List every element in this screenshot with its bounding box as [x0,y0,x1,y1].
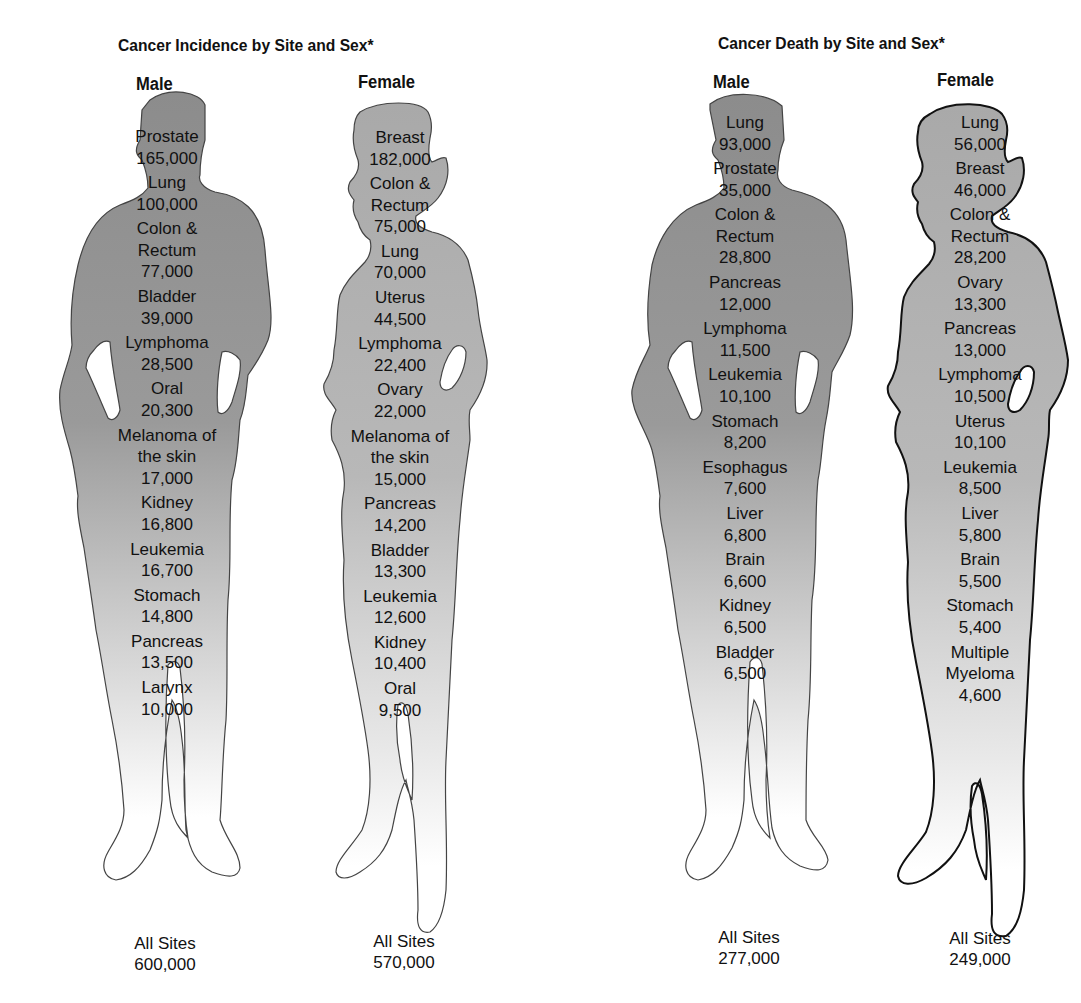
site-entry: Bladder39,000 [82,286,252,329]
site-entry: Colon & Rectum28,800 [700,204,790,269]
incidence-female-sites: Breast182,000 Colon & Rectum75,000 Lung7… [320,127,480,724]
site-entry: Leukemia12,600 [320,586,480,629]
site-entry: Esophagus7,600 [665,457,825,500]
site-entry: Prostate165,000 [82,126,252,169]
site-entry: Pancreas14,200 [320,493,480,536]
site-entry: Colon & Rectum75,000 [355,173,445,238]
site-entry: Leukemia10,100 [665,364,825,407]
site-entry: Uterus10,100 [900,411,1060,454]
incidence-male-all-sites: All Sites 600,000 [110,933,220,975]
site-entry: Breast46,000 [900,158,1060,201]
site-entry: Lymphoma11,500 [665,318,825,361]
site-entry: Lymphoma10,500 [900,364,1060,407]
site-entry: Stomach8,200 [665,411,825,454]
site-entry: Pancreas13,000 [900,318,1060,361]
site-entry: Pancreas12,000 [665,272,825,315]
site-entry: Prostate35,000 [665,158,825,201]
site-entry: Oral20,300 [82,378,252,421]
site-entry: Bladder6,500 [665,642,825,685]
site-entry: Oral9,500 [320,678,480,721]
site-entry: Pancreas13,500 [82,631,252,674]
site-entry: Lung56,000 [900,112,1060,155]
incidence-male-sites: Prostate165,000 Lung100,000 Colon & Rect… [82,126,252,723]
death-female-sites: Lung56,000 Breast46,000 Colon & Rectum28… [900,112,1060,709]
death-male-all-sites: All Sites 277,000 [694,927,804,969]
death-female-all-sites: All Sites 249,000 [925,928,1035,970]
site-entry: Colon & Rectum28,200 [935,204,1025,269]
site-entry: Liver5,800 [900,503,1060,546]
site-entry: Ovary22,000 [320,379,480,422]
site-entry: Leukemia8,500 [900,457,1060,500]
site-entry: Kidney16,800 [82,492,252,535]
site-entry: Uterus44,500 [320,287,480,330]
site-entry: Leukemia16,700 [82,539,252,582]
incidence-female-all-sites: All Sites 570,000 [349,931,459,973]
site-entry: Lung100,000 [82,172,252,215]
site-entry: Lung70,000 [320,241,480,284]
site-entry: Colon & Rectum77,000 [122,218,212,283]
site-entry: Breast182,000 [320,127,480,170]
site-entry: Melanoma of the skin17,000 [107,425,227,490]
site-entry: Lung93,000 [665,112,825,155]
site-entry: Ovary13,300 [900,272,1060,315]
site-entry: Kidney10,400 [320,632,480,675]
site-entry: Bladder13,300 [320,540,480,583]
site-entry: Liver6,800 [665,503,825,546]
site-entry: Brain6,600 [665,549,825,592]
site-entry: Melanoma of the skin15,000 [340,426,460,491]
site-entry: Stomach14,800 [82,585,252,628]
site-entry: Larynx10,000 [82,677,252,720]
site-entry: Lymphoma28,500 [82,332,252,375]
site-entry: Brain5,500 [900,549,1060,592]
death-male-sites: Lung93,000 Prostate35,000 Colon & Rectum… [665,112,825,688]
site-entry: Multiple Myeloma4,600 [935,642,1025,707]
site-entry: Stomach5,400 [900,595,1060,638]
site-entry: Lymphoma22,400 [320,333,480,376]
site-entry: Kidney6,500 [665,595,825,638]
